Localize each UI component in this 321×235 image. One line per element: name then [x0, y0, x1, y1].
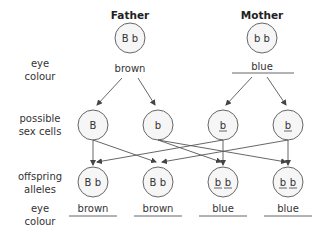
- offspring-allele: b: [290, 177, 296, 188]
- genetic-cross-diagram: eye colour possible sex cells offspring …: [0, 0, 321, 235]
- sex-cell: b: [273, 110, 303, 140]
- cross-arrow-2-to-0: [97, 140, 223, 162]
- offspring-genotype-circle: [208, 167, 238, 197]
- sex-cell: B: [78, 110, 108, 140]
- parent-eye-colour: blue: [251, 61, 273, 72]
- sex-cells-row: Bbbb: [78, 110, 303, 140]
- offspring-row: BbbrownBbbrownbbbluebbblue: [69, 167, 312, 216]
- offspring-allele: B: [85, 177, 92, 188]
- row-label-line: sex cells: [19, 126, 62, 137]
- parent-to-sex-cell-arrows: [97, 77, 286, 105]
- offspring-eye-colour: brown: [143, 203, 174, 214]
- arrow-father-to-sex-cell-2: [138, 78, 155, 105]
- row-label-line: colour: [25, 71, 57, 82]
- cross-arrow-1-to-2: [158, 140, 221, 162]
- sex-cell: b: [143, 110, 173, 140]
- offspring-allele: b: [160, 177, 166, 188]
- arrow-mother-to-sex-cell-3: [226, 77, 252, 105]
- row-label-line: possible: [20, 113, 61, 124]
- parent-father: Father B b brown: [111, 9, 150, 74]
- row-label-line: colour: [25, 216, 57, 227]
- offspring-allele: b: [215, 177, 221, 188]
- offspring-allele: B: [150, 177, 157, 188]
- sex-cell-allele: B: [90, 120, 97, 131]
- offspring-allele: b: [280, 177, 286, 188]
- arrow-mother-to-sex-cell-4: [267, 77, 286, 105]
- offspring-genotype-circle: [143, 167, 173, 197]
- cross-arrows: [93, 140, 288, 165]
- parent-title: Father: [111, 9, 150, 21]
- parent-genotype: b b: [254, 33, 270, 44]
- offspring-item: bbblue: [264, 167, 312, 216]
- offspring-eye-colour: blue: [212, 203, 234, 214]
- offspring-eye-colour: brown: [78, 203, 109, 214]
- row-label-line: eye: [31, 203, 49, 214]
- offspring-genotype-circle: [273, 167, 303, 197]
- row-label-line: offspring: [18, 171, 62, 182]
- offspring-item: Bbbrown: [69, 167, 117, 216]
- sex-cell-allele: b: [155, 120, 161, 131]
- row-label-line: alleles: [24, 184, 56, 195]
- offspring-eye-colour: blue: [277, 203, 299, 214]
- cross-arrow-0-to-1: [93, 140, 156, 162]
- offspring-item: bbblue: [199, 167, 247, 216]
- parent-genotype: B b: [122, 33, 138, 44]
- sex-cell-allele: b: [220, 120, 226, 131]
- parent-eye-colour: brown: [115, 63, 146, 74]
- parent-title: Mother: [241, 9, 284, 21]
- row-label-offspring-alleles: offspring alleles: [18, 171, 62, 195]
- row-label-sex-cells: possible sex cells: [19, 113, 62, 137]
- offspring-item: Bbbrown: [134, 167, 182, 216]
- sex-cell-allele: b: [285, 120, 291, 131]
- parent-mother: Mother b b blue: [232, 9, 294, 73]
- offspring-genotype-circle: [78, 167, 108, 197]
- row-label-offspring-eye-colour: eye colour: [25, 203, 57, 227]
- row-label-parent-eye-colour: eye colour: [25, 58, 57, 82]
- row-label-line: eye: [31, 58, 49, 69]
- arrow-father-to-sex-cell-1: [97, 78, 122, 105]
- offspring-allele: b: [95, 177, 101, 188]
- sex-cell: b: [208, 110, 238, 140]
- offspring-allele: b: [225, 177, 231, 188]
